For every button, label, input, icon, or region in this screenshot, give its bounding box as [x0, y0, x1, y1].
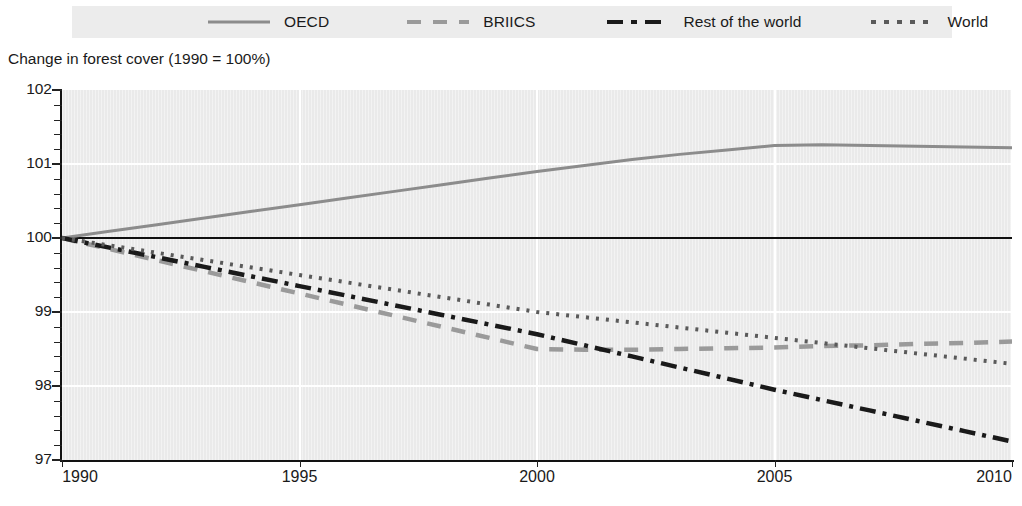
x-tick [537, 460, 538, 467]
y-tick-minor [54, 120, 62, 121]
y-tick-minor [54, 208, 62, 209]
y-axis-label: 101 [0, 154, 52, 172]
y-tick-minor [54, 105, 62, 106]
y-tick-minor [54, 282, 62, 283]
y-tick-major [52, 311, 62, 313]
y-tick-minor [54, 268, 62, 269]
y-tick-minor [54, 223, 62, 224]
y-axis-label: 99 [0, 302, 52, 320]
y-tick-major [52, 89, 62, 91]
y-tick-minor [54, 356, 62, 357]
y-tick-minor [54, 327, 62, 328]
y-tick-minor [54, 253, 62, 254]
y-axis-line [60, 89, 62, 462]
chart-plot-area [62, 90, 1012, 460]
x-axis-label: 2000 [519, 468, 555, 486]
x-tick [775, 460, 776, 467]
x-axis-label: 1995 [282, 468, 318, 486]
x-tick [1012, 460, 1013, 467]
y-tick-major [52, 237, 62, 239]
series-line-rest-of-the-world [62, 238, 1012, 442]
y-axis-label: 97 [0, 450, 52, 468]
x-tick [300, 460, 301, 467]
x-axis-label: 2010 [976, 468, 1012, 486]
y-tick-minor [54, 179, 62, 180]
series-line-oecd [62, 145, 1012, 238]
y-tick-minor [54, 297, 62, 298]
y-tick-minor [54, 149, 62, 150]
y-tick-major [52, 385, 62, 387]
x-axis-label: 2005 [757, 468, 793, 486]
y-axis-label: 100 [0, 228, 52, 246]
y-tick-minor [54, 430, 62, 431]
y-tick-minor [54, 401, 62, 402]
x-axis-label: 1990 [62, 468, 98, 486]
y-tick-minor [54, 342, 62, 343]
y-tick-minor [54, 194, 62, 195]
y-tick-minor [54, 445, 62, 446]
y-axis-label: 98 [0, 376, 52, 394]
chart-plot-wrapper: 102101100999897 19901995200020052010 [0, 0, 1022, 506]
y-tick-minor [54, 416, 62, 417]
y-tick-minor [54, 371, 62, 372]
series-line-world [62, 238, 1012, 364]
y-tick-major [52, 459, 62, 461]
x-tick [62, 460, 63, 467]
y-axis-label: 102 [0, 80, 52, 98]
y-tick-major [52, 163, 62, 165]
y-tick-minor [54, 134, 62, 135]
chart-series-layer [62, 90, 1012, 460]
